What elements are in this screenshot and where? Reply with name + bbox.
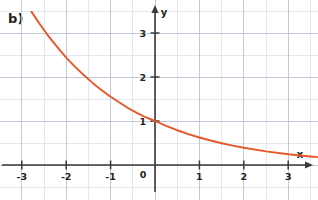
axis-ticks [0,33,318,170]
exponential-curve [32,12,318,163]
y-axis-arrow-icon [151,5,158,13]
y-axis-label: y [161,7,168,18]
minor-gridlines [0,0,318,200]
x-tick-label: 3 [285,171,292,182]
origin-label: 0 [140,169,147,180]
x-tick-label: 2 [240,171,247,182]
x-axis-tick-labels: -6-5-4-3-2-1123456 [0,171,318,182]
x-axis-arrow-icon [305,161,313,168]
exponential-decay-graph-figure: b) -6-5-4-3-2-1123456 123 0 x y [0,0,318,200]
x-tick-label: 1 [196,171,203,182]
x-tick-label: -3 [17,171,28,182]
major-gridlines [0,0,318,200]
y-tick-label: 3 [139,28,146,39]
y-axis-tick-labels: 123 [139,28,146,127]
x-tick-label: -1 [105,171,116,182]
x-tick-label: -2 [61,171,72,182]
plot-area: -6-5-4-3-2-1123456 123 0 x y [0,0,318,200]
y-tick-label: 2 [139,72,146,83]
